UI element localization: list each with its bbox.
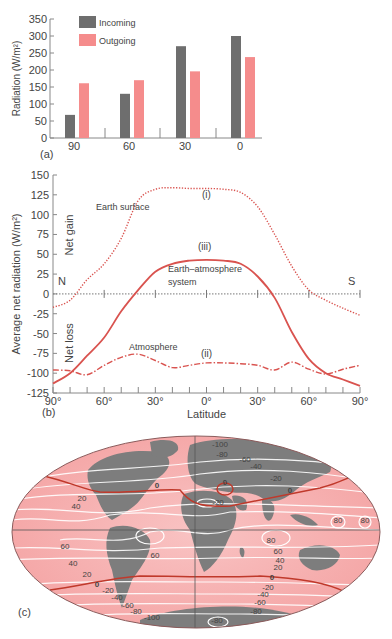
x-tick-label: 90° — [352, 395, 369, 407]
panel-a-label: (a) — [40, 148, 53, 160]
x-tick-label: 30° — [249, 395, 266, 407]
contour-value-label: 0 — [288, 486, 293, 495]
contour-value-label: 20 — [83, 570, 92, 579]
contour-value-label: -80 — [130, 607, 142, 616]
atmosphere-label: Atmosphere — [129, 342, 178, 352]
bar-incoming-60 — [120, 94, 130, 138]
contour-value-label: -60 — [254, 598, 266, 607]
curve-iii-label: (iii) — [198, 241, 211, 252]
contour-value-label: -80 — [211, 616, 223, 625]
y-tick-label: 0 — [43, 288, 49, 300]
x-tick-label: 60° — [96, 395, 113, 407]
y-tick-label: -100 — [27, 367, 49, 379]
x-tick-label: 30° — [147, 395, 164, 407]
bar-incoming-30 — [176, 46, 186, 138]
y-tick-label: 150 — [29, 81, 47, 93]
contour-value-label: 80 — [267, 536, 276, 545]
contour-value-label: -80 — [216, 450, 228, 459]
contour-value-label: 20 — [274, 563, 283, 572]
y-tick-label: 100 — [29, 98, 47, 110]
y-axis-label: Radiation (W/m²) — [11, 41, 22, 117]
y-tick-label: 150 — [31, 169, 49, 181]
y-tick-label: 100 — [31, 209, 49, 221]
contour-value-label: 0 — [223, 478, 228, 487]
y-tick-label: -50 — [33, 328, 49, 340]
y-tick-label: 0 — [41, 132, 47, 144]
y-tick-label: -25 — [33, 308, 49, 320]
earth-atmosphere-label: Earth–atmosphere — [168, 264, 242, 274]
south-label: S — [348, 275, 355, 287]
legend-swatch-outgoing — [79, 34, 96, 46]
contour-value-label: 80 — [361, 516, 370, 525]
panel-b-label: (b) — [42, 406, 55, 418]
y-tick-label: 75 — [37, 228, 49, 240]
x-axis-label: Latitude — [187, 408, 226, 420]
series-earth-atmosphere-system — [53, 260, 360, 386]
contour-value-label: 60 — [61, 542, 70, 551]
contour-value-label: 60 — [274, 547, 283, 556]
contour-value-label: 40 — [69, 559, 78, 568]
map-panel-c: 20406040200-20-40-60-80-10060-100-80-60-… — [12, 436, 380, 630]
x-tick-label: 60 — [123, 140, 135, 152]
contour-value-label: 60 — [151, 551, 160, 560]
legend-label-incoming: Incoming — [99, 18, 136, 28]
contour-value-label: 0 — [155, 481, 160, 490]
line-chart-panel-b: -125-100-75-50-25025507510012515090°60°3… — [10, 169, 368, 420]
legend-label-outgoing: Outgoing — [99, 36, 136, 46]
x-tick-label: 0° — [201, 395, 212, 407]
bar-outgoing-90 — [79, 83, 89, 138]
y-tick-label: 250 — [29, 47, 47, 59]
y-tick-label: -75 — [33, 347, 49, 359]
y-tick-label: 25 — [37, 268, 49, 280]
bar-outgoing-30 — [190, 71, 200, 138]
x-tick-label: 0 — [237, 140, 243, 152]
y-tick-label: 200 — [29, 64, 47, 76]
y-axis-label: Average net radiation (W/m²) — [10, 213, 22, 354]
north-label: N — [58, 275, 66, 287]
contour-value-label: -100 — [212, 440, 229, 449]
curve-i-label: (i) — [202, 189, 211, 200]
contour-value-label: 40 — [72, 502, 81, 511]
y-tick-label: 125 — [31, 189, 49, 201]
contour-value-label: -20 — [212, 498, 224, 507]
x-tick-label: 60° — [301, 395, 318, 407]
bar-incoming-90 — [65, 115, 75, 138]
contour-value-label: 0 — [270, 573, 275, 582]
figure: 0501001502002503003509060300Radiation (W… — [0, 0, 392, 639]
x-tick-label: 30 — [179, 140, 191, 152]
contour-value-label: -40 — [250, 462, 262, 471]
y-tick-label: 350 — [29, 13, 47, 25]
earth-atmosphere-label-2: system — [168, 277, 197, 287]
bar-outgoing-60 — [134, 80, 144, 138]
bar-chart-panel-a: 0501001502002503003509060300Radiation (W… — [11, 13, 262, 152]
legend-swatch-incoming — [79, 16, 96, 28]
net-loss-label: Net loss — [63, 323, 75, 363]
contour-value-label: -20 — [270, 474, 282, 483]
contour-value-label: -100 — [144, 613, 161, 622]
bar-incoming-0 — [231, 36, 241, 138]
y-tick-label: 50 — [35, 115, 47, 127]
contour-value-label: -80 — [250, 607, 262, 616]
x-tick-label: 90 — [68, 140, 80, 152]
panel-c-label: (c) — [18, 606, 31, 618]
y-tick-label: 300 — [29, 30, 47, 42]
curve-ii-label: (ii) — [201, 348, 212, 359]
contour-value-label: 80 — [334, 516, 343, 525]
contour-value-label: 0 — [95, 580, 100, 589]
y-tick-label: 50 — [37, 248, 49, 260]
earth-surface-label: Earth surface — [96, 202, 150, 212]
bar-outgoing-0 — [245, 57, 255, 138]
net-gain-label: Net gain — [63, 215, 75, 256]
